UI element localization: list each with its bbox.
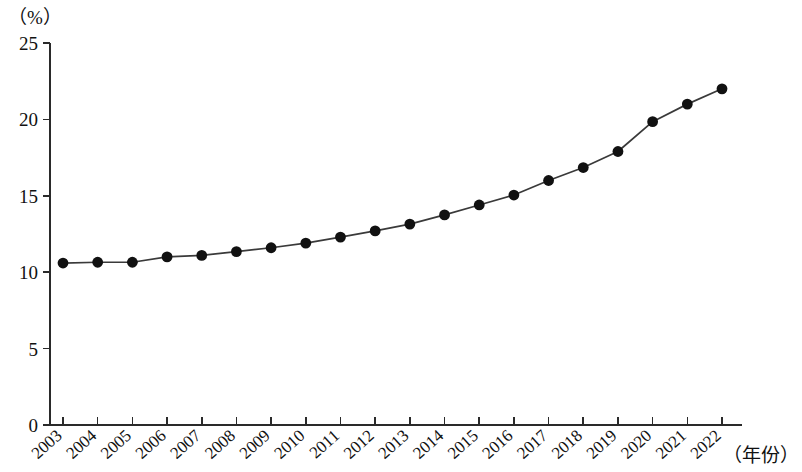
data-point — [127, 257, 138, 268]
data-point — [404, 219, 415, 230]
plot-area: 0510152025 20032004200520062007200820092… — [0, 0, 802, 472]
x-axis-tick-labels: 2003200420052006200720082009201020112012… — [28, 426, 725, 463]
y-tick-label: 10 — [19, 262, 38, 283]
data-point — [196, 250, 207, 261]
x-tick-label: 2018 — [548, 426, 586, 463]
data-point — [508, 190, 519, 201]
y-axis-ticks: 0510152025 — [19, 33, 50, 436]
data-point — [58, 258, 69, 269]
x-tick-label: 2013 — [375, 426, 413, 463]
x-tick-label: 2011 — [306, 426, 344, 462]
x-tick-label: 2017 — [513, 426, 551, 463]
x-tick-label: 2016 — [479, 426, 517, 463]
x-tick-label: 2008 — [201, 426, 239, 463]
x-tick-label: 2004 — [62, 426, 100, 463]
x-tick-label: 2006 — [132, 426, 170, 463]
data-point — [335, 232, 346, 243]
data-point — [439, 210, 450, 221]
x-axis-ticks — [63, 417, 722, 425]
axis-lines — [50, 43, 742, 425]
data-markers — [58, 83, 728, 268]
data-point — [647, 116, 658, 127]
x-tick-label: 2009 — [236, 426, 274, 463]
data-point — [370, 226, 381, 237]
data-point — [682, 99, 693, 110]
x-tick-label: 2010 — [270, 426, 308, 463]
y-tick-label: 0 — [29, 415, 39, 436]
x-tick-label: 2020 — [617, 426, 655, 463]
data-point — [578, 162, 589, 173]
line-chart: （%） （年份） 0510152025 20032004200520062007… — [0, 0, 802, 472]
data-point — [543, 175, 554, 186]
x-tick-label: 2014 — [409, 426, 447, 463]
y-tick-label: 15 — [19, 186, 38, 207]
x-tick-label: 2012 — [340, 426, 378, 463]
x-tick-label: 2019 — [583, 426, 621, 463]
data-point — [162, 252, 173, 263]
y-tick-label: 5 — [29, 339, 39, 360]
x-tick-label: 2015 — [444, 426, 482, 463]
x-tick-label: 2007 — [166, 426, 204, 463]
data-point — [231, 246, 242, 257]
data-line — [63, 89, 722, 263]
data-point — [613, 146, 624, 157]
data-point — [92, 257, 103, 268]
x-tick-label: 2005 — [97, 426, 135, 463]
x-tick-label: 2022 — [687, 426, 725, 463]
data-point — [300, 238, 311, 249]
data-point — [717, 83, 728, 94]
data-point — [474, 200, 485, 211]
y-tick-label: 25 — [19, 33, 38, 54]
y-tick-label: 20 — [19, 109, 38, 130]
data-point — [266, 242, 277, 253]
x-tick-label: 2021 — [652, 426, 690, 463]
